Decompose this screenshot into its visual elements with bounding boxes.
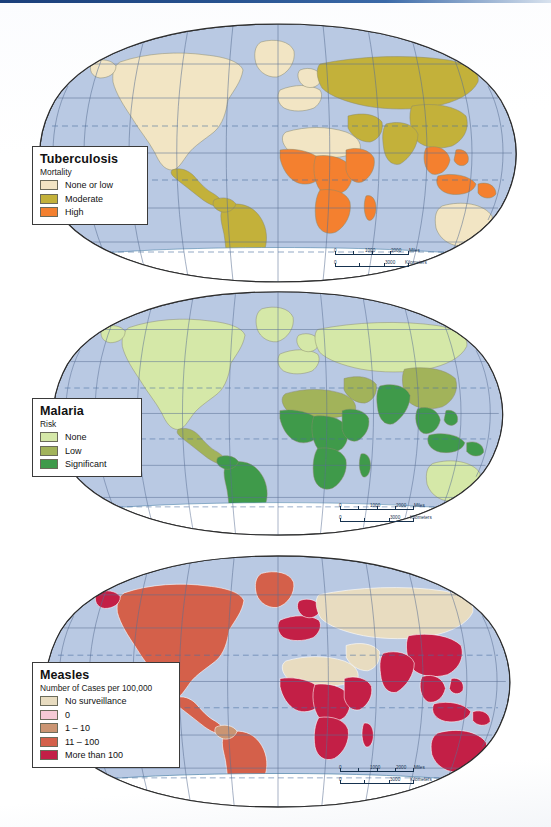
scalebar-miles-mid: 1000 [370,765,380,770]
legend-item-label: 11 – 100 [65,737,99,747]
legend-item-label: Moderate [65,194,103,204]
scalebar-miles-unit: Miles [414,765,425,770]
scalebar-miles-zero: 0 [339,765,342,770]
legend-item-label: More than 100 [65,750,123,760]
scalebar-miles-end: 2000 [391,248,401,253]
legend-swatch [40,459,58,469]
legend-swatch [40,737,58,747]
legend-item-label: 0 [65,710,70,720]
legend-item: High [40,206,139,218]
scalebar-miles-zero: 0 [334,248,337,253]
legend-measles: Measles Number of Cases per 100,000 No s… [32,662,180,768]
legend-item: More than 100 [40,749,171,761]
legend-subtitle: Mortality [40,167,139,177]
legend-item: Low [40,445,133,457]
legend-swatch [40,446,58,456]
scalebar-miles-end: 2000 [396,765,406,770]
legend-item: None [40,431,133,443]
legend-swatch [40,710,58,720]
legend-item-label: None or low [65,180,113,190]
legend-swatch [40,432,58,442]
scalebar-miles-end: 2000 [396,503,406,508]
scalebar-miles-mid: 1000 [370,503,380,508]
scalebar-km-end: 3000 [385,260,395,265]
scalebar-miles-unit: Miles [414,503,425,508]
scalebar-km-end: 3000 [390,777,400,782]
scalebar-miles-unit: Miles [409,248,420,253]
scalebar-km-zero: 0 [334,260,337,265]
legend-item: 0 [40,709,171,721]
legend-item: 1 – 10 [40,722,171,734]
legend-swatch [40,207,58,217]
legend-item: No surveillance [40,695,171,707]
legend-item: Moderate [40,193,139,205]
scalebar-axis-km [340,783,414,784]
scalebar-km-unit: Kilometers [405,260,427,265]
legend-tuberculosis: Tuberculosis Mortality None or low Moder… [32,146,148,225]
legend-item-label: Low [65,446,82,456]
legend-title: Measles [40,668,171,682]
legend-swatch [40,696,58,706]
legend-swatch [40,180,58,190]
legend-item-label: None [65,432,87,442]
scalebar-km-zero: 0 [339,515,342,520]
legend-title: Tuberculosis [40,152,139,166]
legend-swatch [40,194,58,204]
legend-title: Malaria [40,404,133,418]
scalebar-axis-km [335,266,409,267]
legend-item-label: High [65,207,84,217]
legend-item: Significant [40,458,133,470]
scalebar-km-unit: Kilometers [410,777,432,782]
scalebar-miles-mid: 1000 [365,248,375,253]
legend-subtitle: Risk [40,419,133,429]
scalebar-axis-km [340,521,414,522]
legend-item-label: No surveillance [65,696,127,706]
scalebar-km-end: 3000 [390,515,400,520]
scalebar-miles-zero: 0 [339,503,342,508]
legend-item: None or low [40,179,139,191]
legend-subtitle: Number of Cases per 100,000 [40,683,171,693]
legend-item-label: Significant [65,459,107,469]
legend-swatch [40,750,58,760]
legend-malaria: Malaria Risk None Low Significant [32,398,142,477]
legend-item-label: 1 – 10 [65,723,90,733]
legend-item: 11 – 100 [40,736,171,748]
legend-swatch [40,723,58,733]
scan-artifact-bar [0,0,551,3]
scalebar-km-unit: Kilometers [410,515,432,520]
scalebar-km-zero: 0 [339,777,342,782]
